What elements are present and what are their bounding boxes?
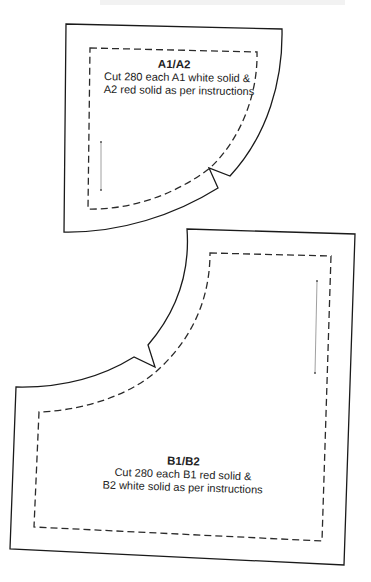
piece-a-instruction-line-2: A2 red solid as per instructions [104, 83, 244, 98]
piece-b-grainline-icon [314, 280, 318, 374]
piece-b-cut-line [10, 229, 355, 565]
piece-b-seam-line [34, 253, 331, 541]
piece-b-label: B1/B2 Cut 280 each B1 red solid & B2 whi… [101, 452, 264, 496]
piece-a-cut-line [64, 24, 282, 232]
piece-a-grainline-icon [100, 141, 102, 191]
piece-a-label: A1/A2 Cut 280 each A1 white solid & A2 r… [104, 57, 245, 98]
